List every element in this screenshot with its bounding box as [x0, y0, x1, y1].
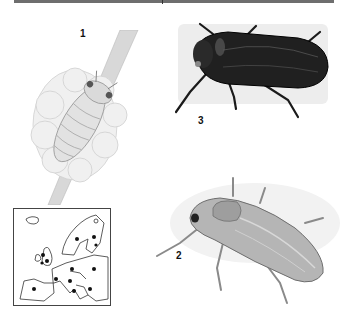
froth-nymph-illustration — [20, 30, 150, 205]
top-rule-tick — [162, 0, 163, 4]
pale-leafhopper-illustration — [145, 168, 340, 318]
europe-outline — [14, 209, 110, 305]
distribution-map — [13, 208, 111, 306]
dark-leafhopper-illustration — [168, 22, 338, 122]
top-rule — [14, 0, 334, 3]
